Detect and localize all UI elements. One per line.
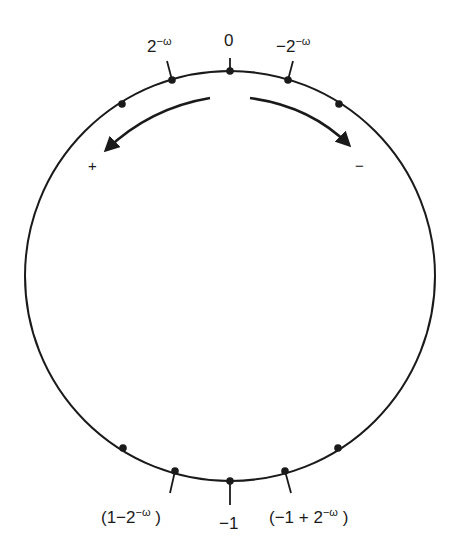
label-close-paren: ) — [155, 508, 161, 527]
arrow-negative-direction — [250, 98, 349, 145]
label-two-neg-omega: 2−ω — [147, 36, 171, 55]
label-base: (−1 + 2 — [269, 508, 323, 527]
label-neg-one: −1 — [219, 515, 238, 532]
label-exponent: −ω — [156, 35, 171, 47]
label-base: (1−2 — [101, 508, 136, 527]
positive-sign: + — [88, 158, 97, 173]
number-circle — [25, 71, 435, 481]
label-exponent: −ω — [136, 506, 151, 518]
negative-sign: − — [355, 158, 364, 173]
label-close-paren: ) — [343, 508, 349, 527]
label-neg-one-plus-two-neg-omega: (−1 + 2−ω ) — [269, 507, 348, 526]
number-circle-diagram — [0, 0, 450, 550]
circle-points — [118, 67, 343, 485]
label-exponent: −ω — [295, 35, 310, 47]
label-neg-two-neg-omega: −2−ω — [276, 36, 310, 55]
label-zero: 0 — [224, 32, 233, 49]
label-one-minus-two-neg-omega: (1−2−ω ) — [101, 507, 161, 526]
label-base: −2 — [276, 37, 295, 56]
label-exponent: −ω — [323, 506, 338, 518]
